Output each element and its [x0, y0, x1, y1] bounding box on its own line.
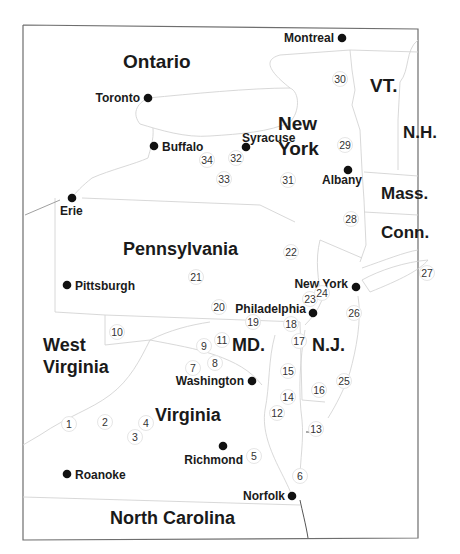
city-pittsburgh: Pittsburgh — [63, 279, 135, 293]
marker-number: 26 — [348, 307, 360, 319]
marker-22: 22 — [284, 245, 299, 260]
marker-28: 28 — [344, 212, 359, 227]
city-label: Buffalo — [162, 140, 203, 154]
city-dot-icon — [150, 142, 159, 151]
city-erie: Erie — [60, 194, 83, 218]
city-label: Norfolk — [243, 489, 285, 503]
marker-number: 32 — [230, 152, 242, 164]
city-label: Washington — [176, 374, 244, 388]
region-label-conn: Conn. — [381, 223, 429, 242]
marker-8: 8 — [208, 356, 223, 371]
city-dot-icon — [352, 283, 361, 292]
marker-19: 19 — [246, 315, 261, 330]
city-label: Albany — [322, 173, 362, 187]
vt-nh-border — [398, 40, 418, 170]
marker-number: 28 — [345, 213, 357, 225]
marker-26: 26 — [347, 306, 362, 321]
marker-14: 14 — [281, 390, 296, 405]
region-label-nj: N.J. — [312, 335, 345, 355]
marker-13: 13 — [309, 422, 324, 437]
marker-30: 30 — [333, 72, 348, 87]
marker-number: 14 — [282, 391, 294, 403]
city-label: Richmond — [184, 453, 243, 467]
marker-7: 7 — [186, 361, 201, 376]
mass-conn-border — [364, 212, 418, 215]
city-dot-icon — [338, 34, 347, 43]
marker-number: 15 — [282, 365, 294, 377]
marker-number: 8 — [212, 357, 218, 369]
marker-27: 27 — [420, 266, 435, 281]
marker-5: 5 — [247, 449, 262, 464]
marker-31: 31 — [281, 173, 296, 188]
marker-number: 22 — [285, 246, 297, 258]
marker-number: 12 — [271, 407, 283, 419]
city-dot-icon — [248, 377, 257, 386]
marker-number: 27 — [421, 267, 433, 279]
marker-number: 13 — [310, 423, 322, 435]
marker-34: 34 — [200, 153, 215, 168]
marker-24: 24 — [315, 286, 330, 301]
city-albany: Albany — [322, 166, 362, 187]
city-dot-icon — [309, 309, 318, 318]
city-dot-icon — [68, 194, 77, 203]
nj-north-border — [320, 240, 362, 258]
city-dot-icon — [144, 94, 153, 103]
marker-number: 6 — [297, 470, 303, 482]
marker-3: 3 — [128, 430, 143, 445]
region-label-pennsylvania: Pennsylvania — [123, 239, 239, 259]
lake-erie-shore — [72, 128, 153, 198]
marker-15: 15 — [281, 364, 296, 379]
marker-number: 9 — [201, 340, 207, 352]
marker-number: 31 — [282, 174, 294, 186]
region-label-mass: Mass. — [381, 184, 428, 203]
marker-4: 4 — [139, 416, 154, 431]
northeast-us-map: OntarioNewYorkVT.N.H.Mass.Conn.Pennsylva… — [0, 0, 460, 554]
marker-9: 9 — [197, 339, 212, 354]
marker-number: 29 — [339, 139, 351, 151]
city-buffalo: Buffalo — [150, 140, 204, 154]
marker-25: 25 — [337, 374, 352, 389]
city-label: Syracuse — [242, 131, 296, 145]
marker-number: 11 — [217, 334, 228, 346]
city-richmond: Richmond — [184, 442, 243, 467]
marker-20: 20 — [212, 300, 227, 315]
city-norfolk: Norfolk — [243, 489, 296, 503]
lake-champlain — [350, 50, 355, 105]
marker-17: 17 — [292, 334, 307, 349]
marker-29: 29 — [338, 138, 353, 153]
ny-northwest-shore — [270, 55, 290, 88]
marker-number: 5 — [251, 450, 257, 462]
marker-number: 7 — [190, 362, 196, 374]
marker-number: 30 — [334, 73, 346, 85]
marker-10: 10 — [110, 325, 125, 340]
region-label-md: MD. — [232, 335, 265, 355]
region-label-ontario: Ontario — [123, 51, 191, 72]
region-label-nh: N.H. — [403, 123, 437, 142]
city-dot-icon — [288, 492, 297, 501]
marker-number: 2 — [102, 416, 108, 428]
conn-shore — [362, 250, 418, 268]
ny-pa-border — [82, 198, 295, 222]
city-roanoke: Roanoke — [63, 468, 126, 482]
marker-number: 3 — [132, 431, 138, 443]
region-label-vt: VT. — [370, 75, 397, 96]
marker-18: 18 — [284, 317, 299, 332]
city-washington: Washington — [176, 374, 257, 388]
city-label: Toronto — [96, 91, 140, 105]
city-montreal: Montreal — [284, 31, 346, 45]
city-dot-icon — [219, 442, 228, 451]
wv-va-border — [23, 340, 150, 445]
region-label-west-virginia-1: West — [43, 335, 86, 355]
marker-number: 34 — [201, 154, 213, 166]
city-toronto: Toronto — [96, 91, 153, 105]
marker-number: 17 — [293, 335, 305, 347]
marker-number: 21 — [190, 271, 202, 283]
marker-21: 21 — [189, 270, 204, 285]
marker-32: 32 — [229, 151, 244, 166]
marker-number: 1 — [66, 418, 72, 430]
marker-number: 10 — [111, 326, 123, 338]
marker-number: 24 — [316, 287, 328, 299]
city-label: Pittsburgh — [75, 279, 135, 293]
outer-banks-line — [300, 500, 308, 538]
marker-16: 16 — [312, 383, 327, 398]
